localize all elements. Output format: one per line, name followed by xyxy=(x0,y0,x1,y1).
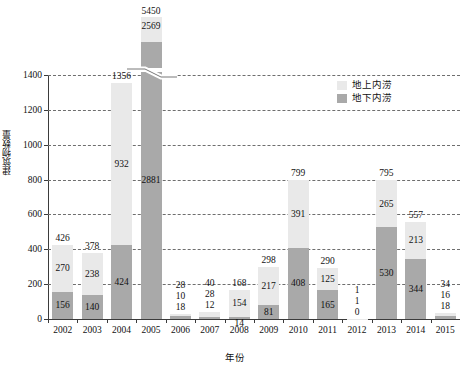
bar-segment-below-2005[interactable] xyxy=(141,72,162,319)
x-tick xyxy=(225,319,226,323)
bar-segment-above-2015[interactable] xyxy=(435,313,456,316)
value-label-above-2002: 270 xyxy=(56,263,70,273)
bar-2005[interactable]: 2881 xyxy=(141,72,162,319)
x-tick-label: 2014 xyxy=(406,325,425,335)
x-tick-label: 2005 xyxy=(142,325,161,335)
value-label-above-2009: 217 xyxy=(262,281,276,291)
bar-2007[interactable]: 402812 xyxy=(199,312,220,319)
bar-segment-below-2006[interactable] xyxy=(170,316,191,319)
x-tick xyxy=(107,319,108,323)
x-tick-label: 2013 xyxy=(377,325,396,335)
y-tick-label: 200 xyxy=(28,279,42,289)
value-label-above-2013: 265 xyxy=(379,199,393,209)
bar-2002[interactable]: 270156426 xyxy=(52,245,73,319)
bar-2004[interactable]: 9324241356 xyxy=(111,83,132,319)
bar-2013[interactable]: 265530795 xyxy=(376,180,397,319)
y-tick-label: 1200 xyxy=(23,105,42,115)
value-label-below-2004: 424 xyxy=(114,277,128,287)
bar-2015[interactable]: 341618 xyxy=(435,313,456,319)
bar-2010[interactable]: 391408799 xyxy=(288,180,309,319)
x-tick xyxy=(48,319,49,323)
gridline xyxy=(48,249,460,250)
x-tick-label: 2007 xyxy=(200,325,219,335)
x-tick xyxy=(195,319,196,323)
gridline xyxy=(48,145,460,146)
value-label-total-2015: 34 xyxy=(441,279,451,289)
value-label-above-2004: 932 xyxy=(114,159,128,169)
bar-2006[interactable]: 281018 xyxy=(170,314,191,319)
value-label-below-2015: 18 xyxy=(441,301,451,311)
value-label-above-2005: 2569 xyxy=(142,21,161,31)
gridline xyxy=(48,180,460,181)
y-tick xyxy=(44,249,48,250)
y-tick-label: 0 xyxy=(37,314,42,324)
bar-2011[interactable]: 125165290 xyxy=(317,268,338,319)
value-label-total-2013: 795 xyxy=(379,168,393,178)
y-tick xyxy=(44,145,48,146)
value-label-below-2005: 2881 xyxy=(142,175,161,185)
x-tick xyxy=(136,319,137,323)
value-label-above-2014: 213 xyxy=(409,235,423,245)
value-label-total-2005: 5450 xyxy=(142,6,161,16)
legend-swatch-above xyxy=(337,81,347,90)
legend-label-below: 地下内涝 xyxy=(352,92,392,105)
legend-label-above: 地上内涝 xyxy=(352,79,392,92)
bar-2014[interactable]: 213344557 xyxy=(405,222,426,319)
legend: 地上内涝 地下内涝 xyxy=(337,79,392,105)
y-tick xyxy=(44,75,48,76)
bar-segment-below-2007[interactable] xyxy=(199,317,220,319)
value-label-below-2013: 530 xyxy=(379,268,393,278)
bar-segment-below-2015[interactable] xyxy=(435,316,456,319)
value-label-total-2008: 168 xyxy=(232,278,246,288)
x-tick-label: 2010 xyxy=(289,325,308,335)
bar-2003[interactable]: 238140378 xyxy=(82,253,103,319)
x-tick-label: 2003 xyxy=(83,325,102,335)
x-tick xyxy=(254,319,255,323)
x-tick-label: 2009 xyxy=(259,325,278,335)
value-label-total-2002: 426 xyxy=(56,233,70,243)
x-tick-label: 2015 xyxy=(436,325,455,335)
y-tick-label: 400 xyxy=(28,244,42,254)
gridline xyxy=(48,75,460,76)
x-tick-label: 2002 xyxy=(53,325,72,335)
value-label-above-2010: 391 xyxy=(291,209,305,219)
x-tick-label: 2008 xyxy=(230,325,249,335)
value-label-below-2010: 408 xyxy=(291,278,305,288)
y-tick xyxy=(44,110,48,111)
x-tick-label: 2012 xyxy=(348,325,367,335)
x-tick xyxy=(401,319,402,323)
plot-area: 0200400600800100012001400 27015642623814… xyxy=(48,8,460,320)
value-label-below-2012: 0 xyxy=(355,307,360,317)
x-tick xyxy=(283,319,284,323)
flood-damage-stacked-bar-chart: 建筑物数量 年份 0200400600800100012001400 27015… xyxy=(0,0,469,369)
x-tick xyxy=(372,319,373,323)
bar-segment-above-2007[interactable] xyxy=(199,312,220,317)
bar-segment-above-2006[interactable] xyxy=(170,314,191,316)
value-label-above-2011: 125 xyxy=(320,274,334,284)
y-tick xyxy=(44,284,48,285)
legend-swatch-below xyxy=(337,94,347,103)
value-label-total-2012: 1 xyxy=(355,285,360,295)
y-tick xyxy=(44,214,48,215)
value-label-below-2009: 81 xyxy=(264,307,274,317)
legend-item-below: 地下内涝 xyxy=(337,92,392,105)
bar-2008[interactable]: 15414168 xyxy=(229,290,250,319)
axis-break-icon xyxy=(127,63,177,83)
gridline xyxy=(48,284,460,285)
value-label-above-2007: 28 xyxy=(205,289,215,299)
value-label-below-2014: 344 xyxy=(409,284,423,294)
y-tick-label: 800 xyxy=(28,175,42,185)
value-label-above-2008: 154 xyxy=(232,298,246,308)
y-tick-label: 1000 xyxy=(23,140,42,150)
value-label-above-2012: 1 xyxy=(355,296,360,306)
value-label-total-2011: 290 xyxy=(320,256,334,266)
bar-2009[interactable]: 21781298 xyxy=(258,267,279,319)
value-label-total-2003: 378 xyxy=(85,241,99,251)
value-label-total-2009: 298 xyxy=(262,255,276,265)
x-tick-label: 2011 xyxy=(318,325,337,335)
value-label-below-2007: 12 xyxy=(205,300,215,310)
value-label-total-2006: 28 xyxy=(176,280,186,290)
value-label-above-2006: 10 xyxy=(176,291,186,301)
x-tick xyxy=(431,319,432,323)
legend-item-above: 地上内涝 xyxy=(337,79,392,92)
